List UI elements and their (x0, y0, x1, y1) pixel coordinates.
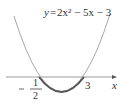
equation-label: y=2x² − 5x − 3 (43, 6, 112, 18)
parabola-curve (14, 14, 110, 92)
root-left-denominator: 2 (33, 90, 38, 101)
parabola-diagram: y=2x² − 5x − 3 x 1 2 3 (0, 0, 124, 109)
root-left-numerator: 1 (33, 77, 38, 88)
parabola-negative-segment (39, 77, 84, 92)
root-right-label: 3 (85, 79, 91, 91)
x-axis-label: x (111, 79, 117, 91)
